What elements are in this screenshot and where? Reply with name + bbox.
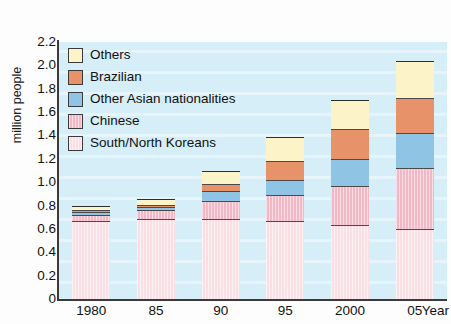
y-tick-label: 2.0 [4,58,56,72]
hatch-texture [202,202,240,219]
bar-segment[interactable] [202,219,240,299]
bar-segment[interactable] [266,161,304,180]
legend-swatch-icon [68,114,83,129]
stacked-bar-chart: million people 2.22.01.81.61.41.21.00.80… [0,0,451,324]
bar-segment[interactable] [331,100,369,129]
hatch-texture [266,196,304,221]
bar-segment[interactable] [137,199,175,205]
y-tick-label: 1.6 [4,105,56,119]
x-tick-label-90: 90 [213,303,228,318]
x-axis-line [57,299,447,301]
bar-segment[interactable] [266,221,304,299]
legend-swatch-icon [68,48,83,63]
y-tick-label: 1.4 [4,128,56,142]
legend-item[interactable]: Brazilian [68,66,318,88]
bar-segment[interactable] [137,219,175,299]
hatch-texture [202,220,240,299]
bar-segment[interactable] [331,186,369,225]
y-tick-label: 0.8 [4,199,56,213]
legend-item[interactable]: South/North Koreans [68,132,318,154]
x-tick-label-05: 05 [407,303,422,318]
bar-segment[interactable] [396,168,434,229]
x-axis-unit-label: Year [422,303,449,318]
y-axis-tick-labels: 2.22.01.81.61.41.21.00.80.60.40.20 [0,0,56,324]
hatch-texture [331,187,369,225]
x-axis-tick-labels: Year 1980859095200005 [59,303,447,324]
hatch-texture [69,137,82,150]
x-tick-label-85: 85 [148,303,163,318]
bar-segment[interactable] [396,229,434,299]
background-band [59,281,447,284]
legend-swatch-icon [68,136,83,151]
legend-label: Other Asian nationalities [90,92,236,106]
legend-item[interactable]: Other Asian nationalities [68,88,318,110]
y-tick-label: 0 [4,292,56,306]
bar-segment[interactable] [266,195,304,221]
legend-label: Chinese [90,114,140,128]
bar-95[interactable] [267,137,304,299]
bar-segment[interactable] [202,191,240,202]
legend-swatch-icon [68,92,83,107]
bar-segment[interactable] [396,133,434,168]
legend-swatch-icon [68,70,83,85]
bar-segment[interactable] [331,159,369,186]
legend-label: South/North Koreans [90,136,216,150]
legend-label: Others [90,48,131,62]
legend-label: Brazilian [90,70,142,84]
bar-segment[interactable] [72,210,110,212]
bar-1980[interactable] [73,206,110,299]
background-band [59,260,447,263]
hatch-texture [137,211,175,219]
bar-segment[interactable] [202,184,240,191]
x-tick-label-2000: 2000 [335,303,365,318]
bar-segment[interactable] [72,215,110,221]
bar-85[interactable] [138,199,175,299]
background-band [59,197,447,200]
bar-segment[interactable] [396,98,434,133]
bar-90[interactable] [202,171,239,299]
background-band [59,155,447,158]
bar-segment[interactable] [72,221,110,299]
y-tick-label: 2.2 [4,35,56,49]
bar-segment[interactable] [137,210,175,219]
bar-segment[interactable] [202,171,240,183]
bar-segment[interactable] [202,201,240,219]
y-tick-label: 0.2 [4,269,56,283]
hatch-texture [396,169,434,229]
y-tick-label: 1.2 [4,152,56,166]
legend-item[interactable]: Chinese [68,110,318,132]
background-band [59,218,447,221]
x-tick-label-1980: 1980 [76,303,106,318]
hatch-texture [331,226,369,299]
chart-legend: OthersBrazilianOther Asian nationalities… [68,44,318,154]
bar-2000[interactable] [332,100,369,299]
background-band [59,176,447,179]
bar-segment[interactable] [396,61,434,98]
bar-segment[interactable] [331,225,369,299]
hatch-texture [69,115,82,128]
hatch-texture [72,222,110,299]
bar-segment[interactable] [137,207,175,211]
bar-segment[interactable] [266,180,304,195]
bar-05[interactable] [396,61,433,299]
background-band [59,239,447,242]
y-tick-label: 0.4 [4,245,56,259]
bar-segment[interactable] [331,129,369,159]
bar-segment[interactable] [137,205,175,207]
hatch-texture [72,216,110,221]
hatch-texture [396,230,434,299]
y-tick-label: 1.8 [4,82,56,96]
hatch-texture [137,220,175,299]
y-tick-label: 1.0 [4,175,56,189]
x-tick-label-95: 95 [278,303,293,318]
legend-item[interactable]: Others [68,44,318,66]
bar-segment[interactable] [72,212,110,215]
bar-segment[interactable] [72,206,110,210]
hatch-texture [266,222,304,299]
y-tick-label: 0.6 [4,222,56,236]
